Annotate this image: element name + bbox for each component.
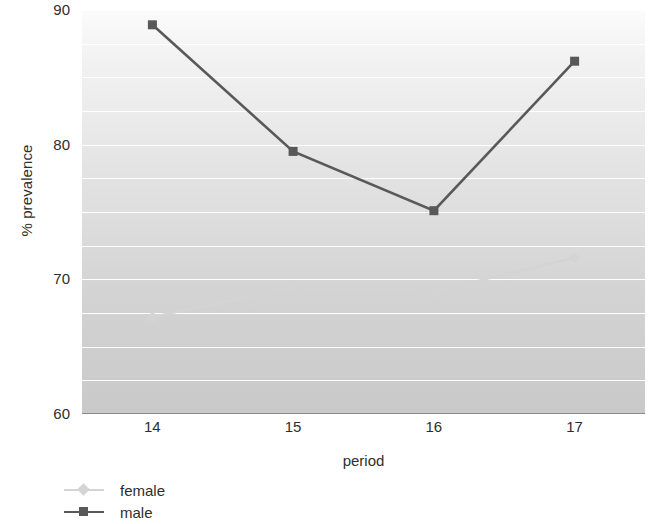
chart-legend: female male [64, 479, 324, 523]
series-male [148, 20, 579, 215]
x-axis-tick-labels: 14151617 [82, 419, 645, 441]
diamond-marker-icon [429, 286, 440, 297]
diamond-marker-icon [147, 312, 158, 323]
x-axis-line [82, 413, 645, 414]
x-axis-tick-label: 14 [144, 419, 161, 434]
legend-item-female[interactable]: female [64, 479, 324, 501]
y-axis-tick-label: 60 [26, 406, 70, 421]
diamond-marker-icon [77, 483, 90, 496]
legend-swatch-female [64, 483, 104, 497]
legend-item-male[interactable]: male [64, 501, 324, 523]
series-layer [82, 10, 645, 414]
diamond-marker-icon [569, 252, 580, 263]
series-line [152, 258, 574, 317]
square-marker-icon [429, 206, 438, 215]
series-female [147, 252, 580, 322]
x-axis-tick-label: 17 [566, 419, 583, 434]
x-axis-tick-label: 16 [426, 419, 443, 434]
x-axis-title: period [82, 452, 645, 469]
diamond-marker-icon [288, 282, 299, 293]
y-axis-tick-label: 70 [26, 271, 70, 286]
x-axis-tick-label: 15 [285, 419, 302, 434]
square-marker-icon [570, 57, 579, 66]
square-marker-icon [289, 147, 298, 156]
legend-swatch-male [64, 505, 104, 519]
y-axis-tick-label: 80 [26, 137, 70, 152]
square-marker-icon [148, 20, 157, 29]
plot-area [82, 10, 645, 414]
series-line [152, 25, 574, 211]
square-marker-icon [79, 507, 88, 516]
legend-label-female: female [120, 483, 165, 498]
y-axis-tick-label: 90 [26, 2, 70, 17]
y-axis-tick-labels: 60708090 [24, 0, 70, 524]
line-chart: % prevalence 60708090 14151617 period fe… [0, 0, 648, 524]
legend-label-male: male [120, 505, 153, 520]
